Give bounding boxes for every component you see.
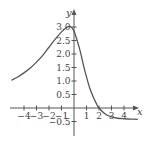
y-tick-label: 2.5 <box>56 36 71 46</box>
y-tick-label: 0.5 <box>56 90 71 100</box>
y-axis-arrow-icon <box>72 9 77 15</box>
y-tick-label: −0.5 <box>49 117 71 127</box>
function-graph: −4−3−2−112343.02.52.01.51.00.5−0.5 x y <box>0 0 146 143</box>
x-axis-label: x <box>137 106 143 117</box>
y-tick-label: 1.0 <box>56 76 71 86</box>
x-tick-label: 2 <box>96 111 102 121</box>
tick-labels: −4−3−2−112343.02.52.01.51.00.5−0.5 <box>17 22 127 127</box>
x-tick-label: 1 <box>84 111 90 121</box>
y-axis-label: y <box>65 7 72 18</box>
y-tick-label: 1.5 <box>56 63 71 73</box>
x-tick-label: −4 <box>17 111 31 121</box>
y-tick-label: 2.0 <box>56 49 71 59</box>
x-tick-label: −3 <box>30 111 44 121</box>
